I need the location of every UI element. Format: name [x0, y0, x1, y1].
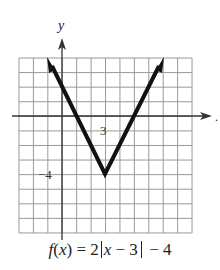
abs-bar-right — [141, 241, 142, 258]
function-caption: f(x) = 2x − 3 − 4 — [0, 240, 220, 260]
graph: y . 3 −4 — [0, 0, 220, 240]
y-axis — [58, 38, 66, 240]
caption-f: f — [49, 240, 54, 259]
caption-part1: ) = 2 — [66, 240, 98, 259]
y-axis-label: y — [56, 18, 65, 33]
tick-label-x-3: 3 — [100, 123, 107, 138]
abs-bar-left — [101, 241, 102, 258]
caption-part2: − 3 — [111, 240, 138, 259]
x-axis-label: . — [215, 110, 218, 124]
caption-part3: − 4 — [145, 240, 172, 259]
tick-label-y-neg4: −4 — [38, 167, 52, 182]
x-axis — [12, 112, 212, 120]
grid-lines — [19, 58, 192, 233]
